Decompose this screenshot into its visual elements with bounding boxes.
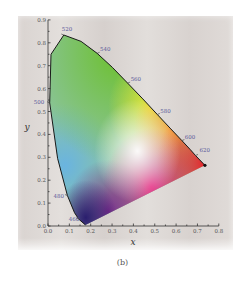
y-tick-label: 0.8 (37, 40, 46, 46)
wavelength-label-560: 560 (131, 76, 142, 82)
x-axis-label: x (130, 237, 135, 247)
x-tick-label: 0.7 (193, 228, 202, 234)
y-tick-label: 0.0 (37, 223, 46, 229)
y-tick-label: 0.9 (37, 17, 46, 23)
wavelength-label-600: 600 (185, 134, 196, 140)
y-tick-label: 0.5 (37, 109, 46, 115)
y-tick-label: 0.1 (37, 200, 46, 206)
wavelength-label-620: 620 (200, 147, 211, 153)
y-tick-labels: 0.00.10.20.30.40.50.60.70.80.9 (37, 17, 46, 229)
red-endpoint-marker (203, 164, 206, 167)
wavelength-label-460: 460 (69, 216, 80, 222)
wavelength-label-500: 500 (34, 99, 45, 105)
chromaticity-plot: 0.00.10.20.30.40.50.60.70.8 0.00.10.20.3… (0, 0, 245, 283)
wavelength-label-540: 540 (100, 46, 111, 52)
wavelength-label-520: 520 (62, 26, 73, 32)
x-tick-label: 0.4 (129, 228, 138, 234)
x-tick-label: 0.8 (214, 228, 223, 234)
y-tick-label: 0.4 (37, 131, 46, 137)
figure-caption: (b) (0, 258, 245, 267)
wavelength-label-580: 580 (160, 108, 171, 114)
x-tick-label: 0.1 (65, 228, 74, 234)
x-tick-label: 0.3 (108, 228, 117, 234)
y-tick-label: 0.6 (37, 86, 46, 92)
x-tick-label: 0.2 (86, 228, 95, 234)
x-tick-label: 0.5 (150, 228, 159, 234)
y-tick-label: 0.7 (37, 63, 46, 69)
y-tick-label: 0.3 (37, 154, 46, 160)
wavelength-label-480: 480 (53, 193, 64, 199)
color-gamut-fill (48, 20, 220, 228)
y-tick-label: 0.2 (37, 177, 46, 183)
x-tick-label: 0.6 (172, 228, 181, 234)
y-axis-label: y (23, 122, 30, 132)
x-tick-labels: 0.00.10.20.30.40.50.60.70.8 (44, 228, 224, 234)
